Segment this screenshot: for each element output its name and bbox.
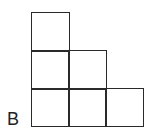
square-r2-c1 [31,50,70,90]
square-r3-c1 [31,88,70,127]
figure-label: B [7,110,19,128]
square-r1-c1 [31,12,70,52]
square-r3-c2 [68,88,107,127]
square-r2-c2 [68,50,107,90]
square-r3-c3 [105,88,144,127]
